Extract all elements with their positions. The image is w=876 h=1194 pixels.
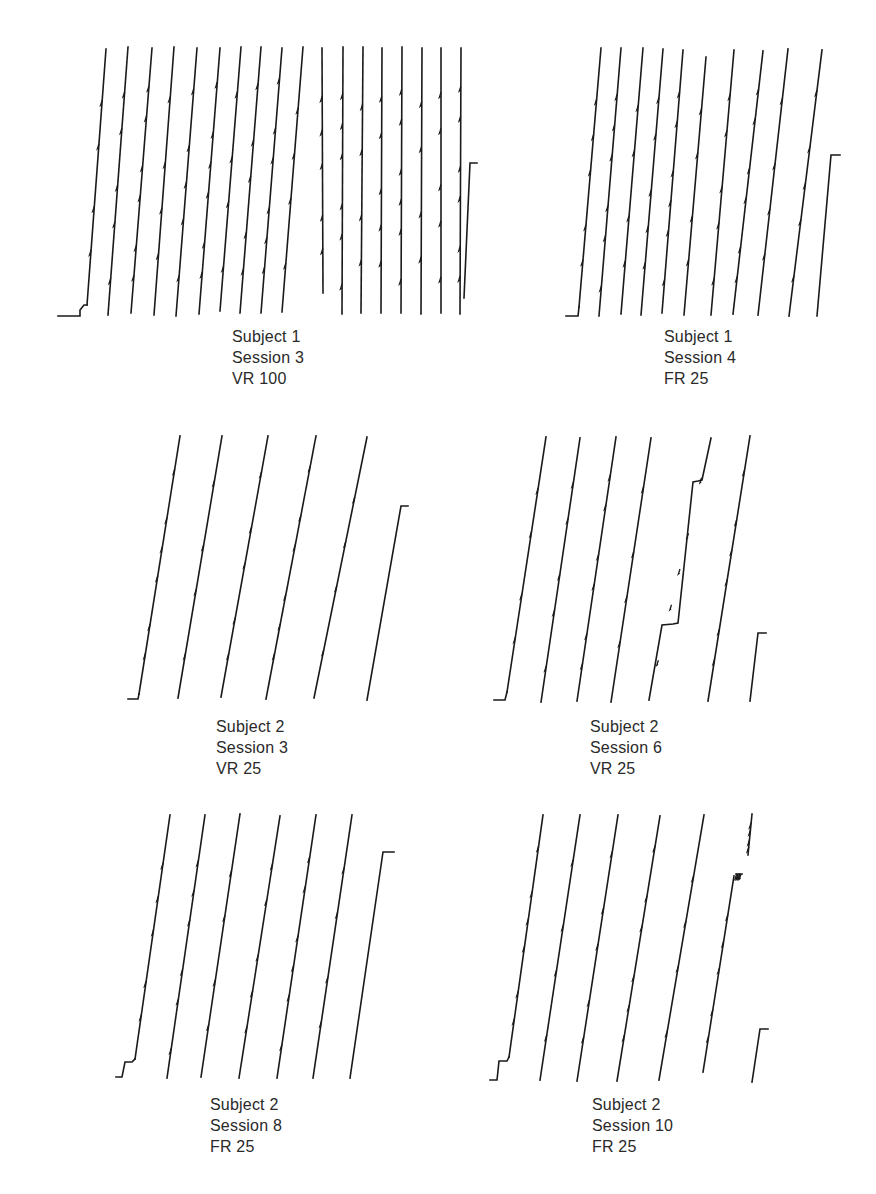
record-start-step xyxy=(116,1059,135,1077)
reinforcement-pip xyxy=(757,89,759,94)
reinforcement-pip xyxy=(781,98,783,103)
record-stroke xyxy=(641,49,663,315)
record-stroke xyxy=(314,437,367,698)
reinforcement-pip xyxy=(420,101,422,106)
reinforcement-pip xyxy=(530,531,532,536)
reinforcement-pip xyxy=(750,823,752,828)
reinforcement-pip xyxy=(341,123,343,128)
caption-schedule: VR 25 xyxy=(216,758,288,779)
record-panel-p1 xyxy=(58,47,477,316)
reinforcement-pip xyxy=(284,594,286,599)
reinforcement-pip xyxy=(700,478,702,483)
caption-session: Session 8 xyxy=(210,1115,282,1136)
reinforcement-pip xyxy=(109,278,111,283)
reinforcement-pip xyxy=(531,891,533,896)
reinforcement-pip xyxy=(193,890,195,895)
reinforcement-pip xyxy=(743,470,745,475)
reinforcement-pip xyxy=(691,216,693,221)
record-stroke xyxy=(87,49,106,305)
reinforcement-pip xyxy=(642,487,644,492)
reinforcement-pip xyxy=(527,919,529,924)
reinforcement-pip xyxy=(299,515,301,520)
reinforcement-pip xyxy=(592,134,594,139)
reinforcement-pip xyxy=(157,896,159,901)
record-end-segment xyxy=(464,163,477,298)
reinforcement-pip xyxy=(353,497,355,502)
reinforcement-pip xyxy=(184,654,186,659)
caption-p1: Subject 1 Session 3 VR 100 xyxy=(232,326,304,389)
reinforcement-pip xyxy=(696,153,698,158)
caption-subject: Subject 2 xyxy=(592,1094,673,1115)
reinforcement-pip xyxy=(666,1031,668,1036)
reinforcement-pip xyxy=(380,188,382,193)
reinforcement-pip xyxy=(230,871,232,876)
caption-p2: Subject 1 Session 4 FR 25 xyxy=(664,326,736,389)
caption-session: Session 3 xyxy=(216,737,288,758)
reinforcement-pip xyxy=(297,936,299,941)
reinforcement-pip xyxy=(748,168,750,173)
reinforcement-pip xyxy=(321,249,323,254)
reinforcement-pip xyxy=(623,1035,625,1040)
reinforcement-pip xyxy=(459,86,461,91)
reinforcement-pip xyxy=(213,481,215,486)
reinforcement-pip xyxy=(523,946,525,951)
reinforcement-pip xyxy=(209,162,211,167)
reinforcement-pip xyxy=(120,128,122,133)
reinforcement-pip xyxy=(132,275,134,280)
reinforcement-pip xyxy=(249,176,251,181)
record-end-segment xyxy=(817,155,840,316)
reinforcement-pip xyxy=(160,208,162,213)
reinforcement-pip xyxy=(216,82,218,87)
reinforcement-pip xyxy=(739,247,741,252)
reinforcement-pip xyxy=(147,86,149,91)
reinforcement-pip xyxy=(361,149,363,154)
reinforcement-pip xyxy=(344,541,346,546)
reinforcement-pip xyxy=(360,215,362,220)
reinforcement-pip xyxy=(273,654,275,659)
reinforcement-pip xyxy=(341,284,343,289)
reinforcement-pip xyxy=(288,995,290,1000)
reinforcement-pip xyxy=(754,118,756,123)
reinforcement-pip xyxy=(593,584,595,589)
reinforcement-pip xyxy=(537,488,539,493)
reinforcement-pip xyxy=(799,219,801,224)
reinforcement-pip xyxy=(361,104,363,109)
reinforcement-pip xyxy=(624,261,626,266)
reinforcement-pip xyxy=(101,100,103,105)
caption-subject: Subject 2 xyxy=(216,716,288,737)
reinforcement-pip xyxy=(748,840,750,845)
reinforcement-pip xyxy=(123,92,125,97)
caption-subject: Subject 2 xyxy=(590,716,662,737)
reinforcement-pip xyxy=(214,980,216,985)
reinforcement-pip xyxy=(604,505,606,510)
reinforcement-pip xyxy=(335,586,337,591)
reinforcement-pip xyxy=(672,171,674,176)
reinforcement-pip xyxy=(195,589,197,594)
reinforcement-pip xyxy=(257,955,259,960)
reinforcement-pip xyxy=(735,520,737,525)
reinforcement-pip xyxy=(178,275,180,280)
reinforcement-pip xyxy=(439,185,441,190)
record-stroke xyxy=(322,48,323,293)
record-end-segment xyxy=(350,852,394,1078)
caption-p3: Subject 2 Session 3 VR 25 xyxy=(216,716,288,779)
record-stroke xyxy=(167,815,205,1078)
reinforcement-pip xyxy=(439,277,441,282)
record-end-segment xyxy=(750,633,766,701)
reinforcement-pip xyxy=(718,629,720,634)
reinforcement-pip xyxy=(459,246,461,251)
record-stroke xyxy=(261,48,282,313)
reinforcement-pip xyxy=(181,969,183,974)
reinforcement-pip xyxy=(692,876,694,881)
reinforcement-pip xyxy=(439,92,441,97)
caption-session: Session 6 xyxy=(590,737,662,758)
record-stroke xyxy=(220,47,241,311)
reinforcement-pip xyxy=(93,206,95,211)
reinforcement-pip xyxy=(170,1048,172,1053)
caption-subject: Subject 1 xyxy=(232,326,304,347)
reinforcement-pip xyxy=(625,596,627,601)
reinforcement-pip xyxy=(400,199,402,204)
reinforcement-pip xyxy=(439,221,441,226)
record-stroke xyxy=(703,876,734,1072)
reinforcement-pip xyxy=(116,185,118,190)
